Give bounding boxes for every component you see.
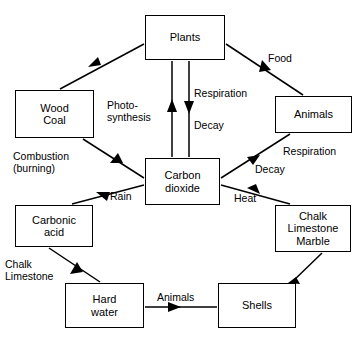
node-plants-label: Plants: [170, 31, 201, 44]
node-wood-coal[interactable]: Wood Coal: [15, 90, 94, 138]
edge-label-combustion: Combustion (burning): [13, 150, 69, 174]
node-wood-coal-label: Wood Coal: [40, 102, 69, 127]
edge-label-rain: Rain: [110, 190, 132, 202]
node-shells-label: Shells: [242, 299, 272, 312]
node-animals-label: Animals: [294, 108, 333, 121]
edge-plants-to-wood: [60, 44, 144, 89]
edge-shells-to-chalk: [288, 253, 322, 284]
edge-label-food: Food: [268, 52, 292, 64]
edge-label-decay-right: Decay: [255, 163, 285, 175]
edge-co2-to-plants: [167, 61, 177, 157]
edge-wood-to-co2: [83, 139, 144, 178]
node-carbonic-acid-label: Carbonic acid: [32, 214, 76, 239]
node-carbon-dioxide[interactable]: Carbon dioxide: [145, 158, 220, 205]
node-carbonic-acid[interactable]: Carbonic acid: [15, 205, 93, 247]
edge-label-animals-edge: Animals: [157, 291, 194, 303]
edge-label-respiration-top: Respiration: [194, 87, 247, 99]
edge-hard-to-shells: [145, 302, 217, 312]
edge-label-respiration-right: Respiration: [283, 145, 336, 157]
edge-label-chalk-limestone: Chalk Limestone: [5, 258, 53, 282]
node-hard-water[interactable]: Hard water: [65, 283, 144, 328]
node-hard-water-label: Hard water: [91, 293, 118, 318]
node-carbon-dioxide-label: Carbon dioxide: [164, 169, 200, 194]
edge-plants-to-co2: [184, 61, 194, 157]
edge-carbonic-to-hard: [49, 248, 100, 282]
node-animals[interactable]: Animals: [275, 96, 352, 133]
edge-label-heat: Heat: [234, 192, 256, 204]
edge-co2-to-carbonic: [72, 185, 144, 204]
carbon-cycle-diagram: Plants Wood Coal Animals Carbon dioxide …: [0, 0, 361, 342]
edge-label-photosynthesis: Photo- synthesis: [107, 99, 151, 123]
node-shells[interactable]: Shells: [218, 283, 296, 328]
node-plants[interactable]: Plants: [145, 15, 225, 60]
node-chalk-limestone-marble-label: Chalk Limestone Marble: [288, 210, 339, 248]
edge-label-decay-top: Decay: [194, 119, 224, 131]
node-chalk-limestone-marble[interactable]: Chalk Limestone Marble: [275, 205, 351, 252]
